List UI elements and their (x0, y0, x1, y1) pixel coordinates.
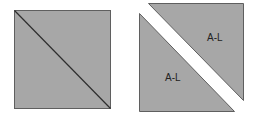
lower-triangle-label: A-L (165, 72, 181, 83)
diagram-canvas: A-L A-L (0, 0, 257, 119)
right-pieces-group: A-L A-L (140, 4, 244, 112)
left-square-group (15, 11, 111, 109)
upper-triangle-label: A-L (207, 32, 223, 43)
